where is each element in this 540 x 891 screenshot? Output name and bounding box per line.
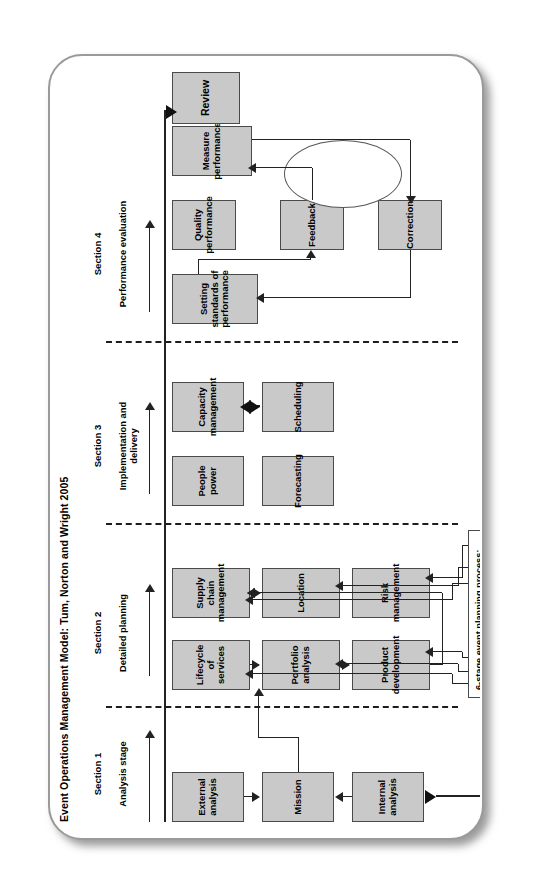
central-ellipse — [284, 140, 402, 208]
box-lifecycle-of-services[interactable]: Lifecycle of services — [172, 640, 250, 690]
box-product-development[interactable]: Product development — [352, 640, 430, 690]
box-setting-standards[interactable]: Setting standards of performance — [172, 274, 258, 324]
box-quality-performance[interactable]: Quality performance — [172, 200, 236, 250]
separator-section-3-4 — [106, 341, 458, 343]
section-2-number: Section 2 — [92, 578, 103, 688]
section-1-stage-label: Analysis stage — [118, 726, 129, 822]
section-4-number: Section 4 — [92, 184, 103, 324]
box-correction[interactable]: Correction — [378, 200, 442, 250]
section-3-number: Section 3 — [92, 386, 103, 506]
box-mission[interactable]: Mission — [262, 772, 334, 822]
panel-6-stage-process: 6-stage event planning process: 1. Defin… — [468, 530, 480, 698]
section-2-stage-label: Detailed planning — [118, 578, 129, 688]
box-forecasting[interactable]: Forecasting — [262, 456, 334, 506]
box-review-overall[interactable]: Review — [172, 72, 240, 124]
box-location[interactable]: Location — [262, 568, 340, 618]
box-supply-chain-management[interactable]: Supply chain management — [172, 568, 250, 618]
diagram-stage-wrapper: Event Operations Management Model: Tum, … — [48, 54, 480, 836]
section-1-number: Section 1 — [92, 726, 103, 822]
box-external-analysis[interactable]: External analysis — [172, 772, 244, 822]
diagram-stage: Event Operations Management Model: Tum, … — [48, 54, 480, 836]
section-4-stage-label: Performance evaluation — [118, 184, 129, 324]
box-measure-performance[interactable]: Measure performance — [172, 126, 252, 176]
box-capacity-management[interactable]: Capacity management — [172, 382, 244, 432]
section-3-stage-label: Implementation and delivery — [118, 386, 140, 506]
box-people-power[interactable]: People power — [172, 456, 244, 506]
page-title: Event Operations Management Model: Tum, … — [58, 477, 70, 822]
box-risk-management[interactable]: Risk management — [352, 568, 430, 618]
separator-section-2-3 — [106, 523, 458, 525]
box-scheduling[interactable]: Scheduling — [262, 382, 334, 432]
diagram-page: Event Operations Management Model: Tum, … — [0, 0, 540, 891]
box-internal-analysis[interactable]: Internal analysis — [352, 772, 424, 822]
panel-heading: 6-stage event planning process: — [474, 538, 480, 690]
separator-section-1-2 — [106, 706, 458, 708]
box-portfolio-analysis[interactable]: Portfolio analysis — [262, 640, 340, 690]
